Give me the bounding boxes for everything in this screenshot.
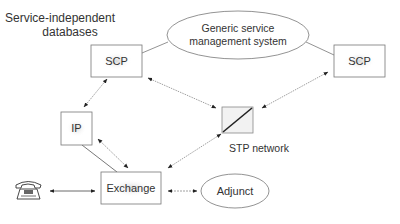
scp-right-label: SCP	[348, 55, 371, 67]
intelligent-network-diagram: Service-independent databases Generic se…	[0, 0, 400, 224]
stp-network-icon	[222, 107, 253, 133]
ip-label: IP	[71, 122, 81, 134]
gsms-label-1: Generic service	[202, 22, 275, 34]
scp-left-stp-link	[148, 78, 216, 108]
adjunct-node: Adjunct	[201, 174, 269, 208]
ip-node: IP	[61, 112, 92, 145]
ip-scp-link	[84, 79, 107, 107]
gsms-to-scp-right-line	[306, 42, 334, 55]
exchange-label: Exchange	[107, 182, 156, 194]
stp-exchange-link	[168, 134, 221, 168]
ip-to-exchange-line	[82, 145, 117, 172]
scp-right-node: SCP	[334, 45, 385, 77]
telephone-icon	[16, 182, 41, 200]
stp-network-label: STP network	[229, 142, 290, 154]
adjunct-label: Adjunct	[217, 185, 254, 197]
exchange-node: Exchange	[101, 172, 161, 204]
title-line-2: databases	[42, 25, 97, 39]
gsms-label-2: management system	[189, 35, 287, 47]
generic-service-management-system: Generic service management system	[167, 11, 309, 59]
title-line-1: Service-independent	[5, 11, 116, 25]
ip-exchange-link	[98, 139, 128, 168]
stp-scp-right-link	[262, 72, 328, 108]
scp-left-node: SCP	[91, 45, 142, 77]
scp-left-to-gsms-line	[142, 42, 168, 53]
scp-left-label: SCP	[105, 55, 128, 67]
